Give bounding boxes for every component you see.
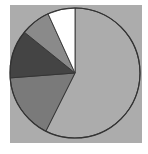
pie-chart-canvas (0, 0, 148, 154)
pie-chart (0, 0, 148, 154)
pie-slices (10, 8, 140, 138)
